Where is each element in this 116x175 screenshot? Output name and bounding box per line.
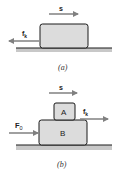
displacement-arrow-a: s [49,5,78,14]
block-a [40,24,88,48]
friction-label-b: fk [83,108,88,117]
friction-label-a: fk [22,30,27,39]
block-b-label: B [60,129,65,138]
floor-a [16,48,112,52]
displacement-label-a: s [59,5,63,12]
friction-arrow-a: fk [9,30,39,41]
displacement-arrow-b: s [49,84,77,93]
applied-force-arrow: F0 [9,121,38,133]
figure-a: s fk (a) [9,5,112,72]
caption-a: (a) [58,63,68,72]
friction-arrow-b: fk [80,108,108,119]
applied-force-label: F0 [15,121,23,131]
displacement-label-b: s [59,84,63,91]
block-a-label: A [61,108,67,117]
physics-diagram: s fk (a) s B A [0,0,116,175]
figure-b: s B A fk F0 (b) [9,84,112,169]
caption-b: (b) [57,160,67,169]
floor-b [16,145,112,150]
